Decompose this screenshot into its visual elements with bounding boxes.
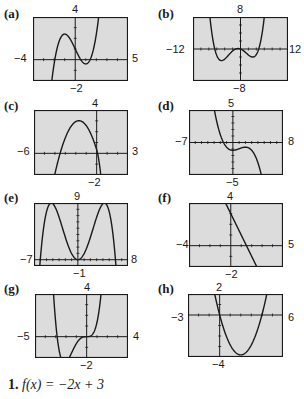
graph-d [189, 110, 283, 175]
panel-g-xmax: 4 [133, 330, 139, 342]
panel-c-xmax: 3 [132, 145, 138, 157]
panel-g-ymax: 4 [84, 281, 90, 293]
panel-b-xmin: −12 [166, 43, 185, 55]
panel-c-ymax: 4 [92, 97, 98, 109]
panel-a-label: (a) [4, 6, 19, 22]
panel-e-label: (e) [4, 190, 18, 206]
panel-h-label: (h) [158, 281, 174, 297]
graph-b [193, 17, 288, 81]
panel-c-label: (c) [4, 98, 18, 114]
panel-g-label: (g) [4, 281, 19, 297]
panel-g-ymin: −2 [80, 359, 93, 371]
panel-d-ymin: −5 [226, 176, 239, 188]
panel-e-xmax: 8 [131, 253, 137, 265]
panel-a-ymax: 4 [72, 3, 78, 15]
panel-a-xmin: −4 [14, 52, 27, 64]
panel-d-label: (d) [158, 98, 174, 114]
panel-a-xmax: 5 [132, 52, 138, 64]
panel-c-ymin: −2 [88, 176, 101, 188]
graph-f [189, 203, 283, 267]
exercise-number: 1. [8, 377, 19, 392]
panel-c-xmin: −6 [17, 145, 30, 157]
panel-f-xmin: −4 [176, 238, 189, 250]
exercise-expression: f(x) = −2x + 3 [22, 377, 104, 392]
panel-h-xmax: 6 [288, 311, 294, 323]
panel-e-ymin: −1 [73, 267, 86, 279]
panel-e-xmin: −7 [20, 253, 33, 265]
panel-e-ymax: 9 [74, 190, 80, 202]
panel-h-ymax: 2 [216, 281, 222, 293]
panel-b-ymax: 8 [237, 3, 243, 15]
panel-a-ymin: −2 [70, 82, 83, 94]
panel-d-xmin: −7 [175, 135, 188, 147]
panel-f-label: (f) [158, 190, 171, 206]
panel-h-ymin: −4 [212, 358, 225, 370]
graph-a [33, 17, 128, 81]
graph-h [188, 294, 283, 357]
panel-f-ymin: −2 [225, 268, 238, 280]
panel-d-ymax: 5 [228, 97, 234, 109]
panel-b-ymin: −8 [233, 82, 246, 94]
exercise-1: 1. f(x) = −2x + 3 [8, 377, 104, 393]
panel-g-xmin: −5 [17, 330, 30, 342]
panel-b-xmax: 12 [289, 43, 301, 55]
panel-f-xmax: 5 [288, 238, 294, 250]
panel-b-label: (b) [158, 6, 174, 22]
graph-e [34, 203, 128, 266]
panel-f-ymax: 4 [227, 190, 233, 202]
panel-h-xmin: −3 [171, 311, 184, 323]
panel-d-xmax: 8 [288, 135, 294, 147]
graph-c [34, 110, 128, 175]
graph-g [35, 294, 128, 358]
